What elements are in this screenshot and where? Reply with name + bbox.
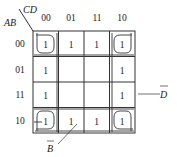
col-header-01: 01 <box>66 13 76 23</box>
cell-2-0: 1 <box>43 91 48 101</box>
col-header-10: 10 <box>117 13 127 23</box>
row-header-00: 00 <box>15 39 25 49</box>
cell-3-1: 1 <box>69 117 74 127</box>
cell-0-3: 1 <box>120 40 125 50</box>
cell-3-2: 1 <box>94 117 99 127</box>
b-bar-leader-line <box>58 124 77 144</box>
col-variable-label: CD <box>23 4 38 15</box>
col-header-00: 00 <box>41 13 51 23</box>
row-header-11: 11 <box>15 90 24 100</box>
cell-1-3: 1 <box>120 66 125 76</box>
cell-2-3: 1 <box>120 91 125 101</box>
cell-0-0: 1 <box>43 40 48 50</box>
b-bar-label: B <box>47 143 53 154</box>
cell-0-1: 1 <box>69 40 74 50</box>
row-header-10: 10 <box>15 116 25 126</box>
col-header-11: 11 <box>92 13 101 23</box>
row-variable-label: AB <box>3 17 16 28</box>
cell-3-0: 1 <box>43 117 48 127</box>
cell-3-3: 1 <box>120 117 125 127</box>
karnaugh-map: CD AB 00 01 11 10 00 01 11 10 1 1 1 1 1 … <box>0 0 177 157</box>
cell-0-2: 1 <box>94 40 99 50</box>
row-header-01: 01 <box>15 65 25 75</box>
d-bar-label: D <box>159 89 168 100</box>
d-bar-annotation: D <box>138 86 168 100</box>
cell-1-0: 1 <box>43 66 48 76</box>
